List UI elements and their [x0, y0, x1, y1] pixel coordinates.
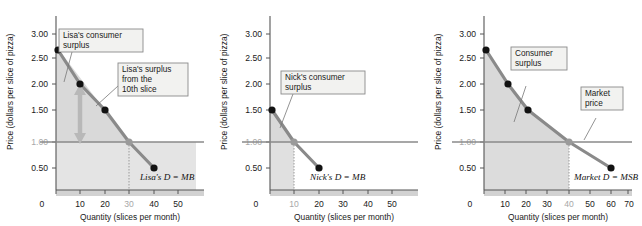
expenditure-shaded-region — [484, 142, 569, 190]
chart-panel-nick: 3.00 2.50 2.00 1.50 1.00 0.50 0 10 20 30… — [214, 0, 428, 226]
callout-line: surplus — [63, 41, 89, 50]
y-tick-label-050: 0.50 — [31, 163, 48, 173]
callout-line: price — [585, 99, 603, 108]
y-tick-label-300: 3.00 — [459, 29, 476, 39]
callout-line: Market — [585, 89, 611, 98]
y-tick-label-200: 2.00 — [245, 79, 262, 89]
lisa-chart-svg: 3.00 2.50 2.00 1.50 1.00 0.50 0 10 20 30… — [0, 0, 214, 226]
xaxis-band — [270, 190, 418, 196]
data-point — [290, 138, 297, 145]
x-tick-label-50: 50 — [585, 199, 595, 209]
y-tick-label-250: 2.50 — [459, 53, 476, 63]
y-tick-label-300: 3.00 — [31, 29, 48, 39]
chart-panel-lisa: 3.00 2.50 2.00 1.50 1.00 0.50 0 10 20 30… — [0, 0, 214, 226]
callout-line: Consumer — [515, 49, 553, 58]
x-tick-label-30: 30 — [542, 199, 552, 209]
x-tick-label-10: 10 — [75, 199, 85, 209]
data-point — [482, 46, 489, 53]
y-tick-label-050: 0.50 — [245, 163, 262, 173]
x-tick-label-40: 40 — [564, 199, 574, 209]
y-axis-title: Price (dollars per slice of pizza) — [219, 33, 229, 150]
x-axis-title: Quantity (slices per month) — [508, 212, 608, 222]
data-point — [125, 138, 132, 145]
callout-line: surplus — [515, 59, 541, 68]
data-point — [504, 80, 511, 87]
data-point — [268, 106, 275, 113]
x-tick-label-0: 0 — [40, 199, 45, 209]
callout-leader-line — [280, 94, 293, 128]
data-point — [101, 106, 108, 113]
x-tick-label-0: 0 — [254, 199, 259, 209]
callout-line: from the — [122, 75, 152, 84]
callout-leader-line — [96, 86, 118, 106]
curve-label-lisa: Lisa's D = MB — [139, 172, 195, 182]
x-tick-label-50: 50 — [173, 199, 183, 209]
y-tick-label-200: 2.00 — [31, 79, 48, 89]
consumer-surplus-callout: Consumer surplus — [511, 47, 567, 70]
x-tick-label-40: 40 — [149, 199, 159, 209]
y-tick-marks — [52, 34, 56, 168]
y-tick-label-200: 2.00 — [459, 79, 476, 89]
x-tick-label-30: 30 — [124, 199, 134, 209]
tenth-slice-surplus-callout: Lisa's surplus from the 10th slice — [118, 63, 188, 96]
data-point — [607, 164, 614, 171]
y-tick-label-250: 2.50 — [31, 53, 48, 63]
expenditure-shaded-region — [56, 142, 196, 190]
y-tick-marks — [480, 34, 484, 168]
xaxis-band — [56, 190, 204, 196]
nick-chart-svg: 3.00 2.50 2.00 1.50 1.00 0.50 0 10 20 30… — [214, 0, 428, 226]
market-chart-svg: 3.00 2.50 2.00 1.50 1.00 0.50 0 10 20 30… — [428, 0, 642, 226]
y-tick-label-150: 1.50 — [31, 105, 48, 115]
x-tick-label-50: 50 — [387, 199, 397, 209]
y-tick-marks — [266, 34, 270, 168]
xaxis-band — [484, 190, 632, 196]
data-point — [150, 164, 157, 171]
x-tick-label-70: 70 — [624, 199, 634, 209]
callout-line: Lisa's surplus — [122, 65, 171, 74]
x-tick-label-0: 0 — [468, 199, 473, 209]
y-axis-title: Price (dollars per slice of pizza) — [433, 33, 443, 150]
x-tick-label-60: 60 — [606, 199, 616, 209]
x-tick-label-10: 10 — [289, 199, 299, 209]
curve-label-market: Market D = MSB — [573, 172, 639, 182]
x-axis-title: Quantity (slices per month) — [80, 212, 180, 222]
data-point — [565, 138, 572, 145]
y-tick-label-250: 2.50 — [245, 53, 262, 63]
x-tick-label-40: 40 — [363, 199, 373, 209]
data-point — [524, 106, 531, 113]
y-tick-label-300: 3.00 — [245, 29, 262, 39]
data-point — [76, 80, 83, 87]
x-tick-label-10: 10 — [500, 199, 510, 209]
callout-line: Lisa's consumer — [63, 31, 122, 40]
callout-leader-line — [584, 118, 596, 140]
consumer-surplus-figure: 3.00 2.50 2.00 1.50 1.00 0.50 0 10 20 30… — [0, 0, 642, 226]
consumer-surplus-callout: Lisa's consumer surplus — [59, 29, 143, 52]
curve-label-nick: Nick's D = MB — [309, 172, 366, 182]
x-tick-label-20: 20 — [100, 199, 110, 209]
x-axis-title: Quantity (slices per month) — [294, 212, 394, 222]
y-tick-label-150: 1.50 — [459, 105, 476, 115]
callout-line: Nick's consumer — [285, 73, 345, 82]
x-tick-label-30: 30 — [338, 199, 348, 209]
market-price-callout: Market price — [581, 87, 623, 110]
consumer-surplus-callout: Nick's consumer surplus — [281, 71, 365, 94]
callout-line: 10th slice — [122, 85, 157, 94]
y-tick-label-150: 1.50 — [245, 105, 262, 115]
data-point — [315, 164, 322, 171]
callout-line: surplus — [285, 83, 311, 92]
x-tick-label-20: 20 — [314, 199, 324, 209]
y-tick-label-050: 0.50 — [459, 163, 476, 173]
x-tick-label-20: 20 — [521, 199, 531, 209]
expenditure-shaded-region — [270, 142, 294, 190]
chart-panel-market: 3.00 2.50 2.00 1.50 1.00 0.50 0 10 20 30… — [428, 0, 642, 226]
y-axis-title: Price (dollars per slice of pizza) — [5, 33, 15, 150]
